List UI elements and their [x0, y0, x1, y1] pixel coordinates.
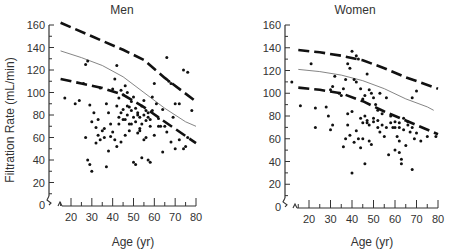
data-point — [142, 138, 145, 141]
data-point — [381, 124, 384, 127]
data-point — [142, 99, 145, 102]
data-point — [178, 138, 181, 141]
data-point — [105, 102, 108, 105]
figure: Filtration Rate (mL/min) Men Age (yr) 02… — [0, 0, 452, 250]
data-point — [182, 147, 185, 150]
data-point — [122, 93, 125, 96]
data-point — [400, 162, 403, 165]
data-point — [161, 151, 164, 154]
data-point — [357, 137, 360, 140]
data-point — [402, 117, 405, 120]
data-point — [402, 128, 405, 131]
data-point — [419, 140, 422, 143]
x-tick-label: 50 — [127, 211, 139, 223]
data-point — [314, 126, 317, 129]
data-point — [117, 116, 120, 119]
upper-bound-line — [61, 23, 196, 102]
data-point — [355, 80, 358, 83]
data-point — [132, 116, 135, 119]
data-point — [398, 126, 401, 129]
data-point — [111, 88, 114, 91]
data-point — [351, 110, 354, 113]
data-point — [331, 85, 334, 88]
y-tick-label: 20 — [33, 177, 45, 189]
x-axis-break-icon — [58, 202, 62, 206]
data-point — [165, 56, 168, 59]
data-point — [333, 75, 336, 78]
y-tick-label: 40 — [33, 154, 45, 166]
data-point — [109, 123, 112, 126]
data-point — [155, 102, 158, 105]
data-point — [172, 116, 175, 119]
data-point — [165, 130, 168, 133]
x-axis-label-women: Age (yr) — [351, 235, 394, 249]
data-point — [351, 50, 354, 53]
data-point — [145, 136, 148, 139]
data-point — [186, 136, 189, 139]
data-point — [376, 109, 379, 112]
data-point — [90, 120, 93, 123]
y-tick-label: 160 — [27, 19, 45, 31]
x-tick-label: 40 — [346, 213, 358, 225]
data-point — [353, 141, 356, 144]
data-point — [387, 153, 390, 156]
data-point — [361, 97, 364, 100]
y-axis-break-icon — [283, 198, 287, 207]
data-point — [115, 64, 118, 67]
data-point — [346, 124, 349, 127]
data-point — [376, 126, 379, 129]
data-point — [153, 82, 156, 85]
data-point — [167, 80, 170, 83]
data-point — [170, 141, 173, 144]
data-point — [325, 105, 328, 108]
data-point — [149, 161, 152, 164]
y-tick-label: 80 — [269, 110, 281, 122]
data-point — [366, 72, 369, 75]
data-point — [113, 138, 116, 141]
data-point — [134, 120, 137, 123]
data-point — [374, 103, 377, 106]
data-point — [329, 88, 332, 91]
data-point — [348, 67, 351, 70]
data-point — [366, 119, 369, 122]
y-tick-label: 60 — [33, 132, 45, 144]
data-point — [409, 130, 412, 133]
data-point — [389, 115, 392, 118]
data-point — [368, 88, 371, 91]
data-point — [372, 117, 375, 120]
y-tick-label: 120 — [27, 64, 45, 76]
data-point — [363, 94, 366, 97]
data-point — [126, 114, 129, 117]
data-point — [170, 82, 173, 85]
data-point — [103, 136, 106, 139]
y-tick-label: 100 — [263, 87, 281, 99]
y-tick-label: 0 — [275, 201, 281, 213]
x-tick-label: 30 — [86, 211, 98, 223]
data-point — [378, 130, 381, 133]
data-point — [128, 123, 131, 126]
data-point — [128, 129, 131, 132]
data-point — [147, 111, 150, 114]
data-point — [136, 132, 139, 135]
data-point — [122, 108, 125, 111]
data-point — [120, 111, 123, 114]
data-point — [138, 116, 141, 119]
data-point — [130, 109, 133, 112]
data-point — [411, 96, 414, 99]
chart-panel-women: Women Age (yr) 0204060801001201401602030… — [263, 3, 444, 249]
data-point — [174, 147, 177, 150]
data-point — [385, 126, 388, 129]
x-tick-label: 30 — [324, 213, 336, 225]
data-point — [126, 91, 129, 94]
data-point — [157, 125, 160, 128]
data-point — [111, 130, 114, 133]
data-point — [63, 97, 66, 100]
data-point — [400, 158, 403, 161]
data-point — [90, 170, 93, 173]
x-tick-label: 70 — [410, 213, 422, 225]
data-point — [84, 136, 87, 139]
data-point — [153, 134, 156, 137]
data-point — [376, 119, 379, 122]
data-point — [138, 129, 141, 132]
data-point — [346, 112, 349, 115]
